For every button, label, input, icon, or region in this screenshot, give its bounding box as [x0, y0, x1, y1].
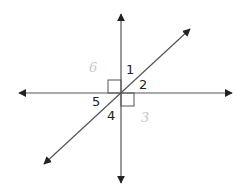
angle-label-6: 6	[89, 60, 97, 75]
angle-label-2: 2	[139, 77, 147, 92]
diagonal-line	[44, 29, 190, 164]
angle-label-5: 5	[92, 94, 100, 109]
angle-label-4: 4	[107, 108, 115, 123]
right-angle-upper-left	[108, 80, 121, 93]
angle-label-1: 1	[126, 62, 134, 77]
angle-label-3: 3	[141, 110, 149, 125]
right-angle-lower-right	[121, 93, 134, 106]
intersecting-lines-diagram: 123456	[0, 0, 246, 194]
lines-layer	[19, 14, 232, 183]
